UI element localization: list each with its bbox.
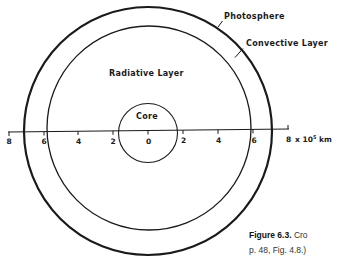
tick-label-8: 8 — [286, 135, 291, 144]
tick-label-2: 2 — [181, 136, 186, 145]
photosphere-leader — [218, 21, 223, 27]
figure-caption-line2: p. 48, Fig. 4.8.) — [249, 245, 306, 255]
tick-label-4: 4 — [216, 136, 221, 145]
convective-boundary-circle — [47, 26, 251, 230]
sun-structure-diagram: 8 6 4 2 0 2 4 6 8 x 105 km Photosphere C… — [0, 0, 341, 258]
tick-label-neg8: 8 — [7, 137, 12, 146]
core-label: Core — [136, 112, 158, 121]
photosphere-label: Photosphere — [224, 12, 285, 21]
caption-text: Cro — [292, 230, 308, 240]
tick-label-0: 0 — [146, 137, 151, 146]
tick-label-neg4: 4 — [76, 137, 81, 146]
tick-label-neg6: 6 — [42, 137, 47, 146]
tick-label-6: 6 — [252, 136, 257, 145]
axis-unit-label: x 105 km — [295, 134, 332, 145]
convective-leader — [235, 49, 243, 58]
axis-ticks — [9, 125, 288, 136]
convective-layer-label: Convective Layer — [246, 39, 328, 48]
figure-caption-line1: Figure 6.3. Cro — [249, 230, 308, 240]
tick-label-neg2: 2 — [111, 137, 116, 146]
figure-number: Figure 6.3. — [249, 230, 292, 240]
radiative-layer-label: Radiative Layer — [109, 69, 184, 78]
